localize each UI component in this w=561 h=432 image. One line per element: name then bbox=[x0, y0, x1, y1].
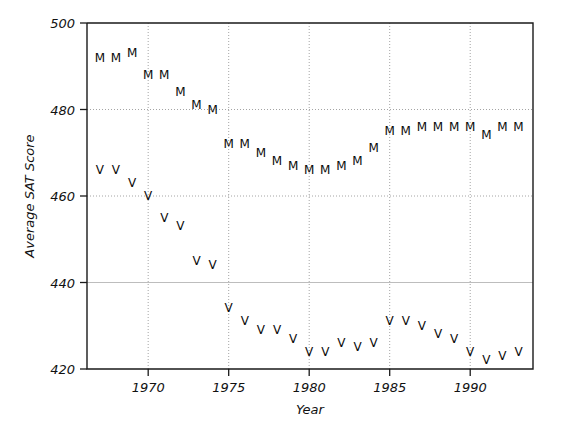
data-marker: M bbox=[433, 120, 443, 134]
data-marker: M bbox=[240, 137, 250, 151]
data-marker: V bbox=[418, 319, 427, 333]
x-tick-label: 1990 bbox=[454, 380, 487, 395]
y-axis-ticks: 420440460480500 bbox=[50, 16, 87, 377]
data-marker: M bbox=[127, 46, 137, 60]
data-marker: V bbox=[289, 332, 298, 346]
data-marker: V bbox=[160, 211, 169, 225]
data-marker: M bbox=[95, 51, 105, 65]
x-tick-label: 1985 bbox=[373, 380, 406, 395]
data-marker: M bbox=[368, 141, 378, 155]
data-marker: M bbox=[256, 146, 266, 160]
data-marker: V bbox=[257, 323, 266, 337]
y-tick-label: 500 bbox=[50, 16, 75, 31]
data-marker: M bbox=[513, 120, 523, 134]
series-V: VVVVVVVVVVVVVVVVVVVVVVVVVVV bbox=[96, 163, 524, 367]
data-marker: M bbox=[352, 154, 362, 168]
data-marker: M bbox=[191, 98, 201, 112]
data-marker: M bbox=[465, 120, 475, 134]
data-marker: V bbox=[208, 258, 217, 272]
data-marker: V bbox=[353, 340, 362, 354]
data-marker: M bbox=[497, 120, 507, 134]
data-marker: V bbox=[386, 314, 395, 328]
data-marker: M bbox=[417, 120, 427, 134]
data-marker: V bbox=[192, 254, 201, 268]
data-marker: M bbox=[111, 51, 121, 65]
data-marker: V bbox=[498, 349, 507, 363]
sat-score-chart: 420440460480500 19701975198019851990 MMM… bbox=[0, 0, 561, 432]
x-tick-label: 1970 bbox=[132, 380, 165, 395]
data-marker: M bbox=[224, 137, 234, 151]
data-marker: V bbox=[112, 163, 121, 177]
data-marker: V bbox=[176, 219, 185, 233]
data-marker: M bbox=[304, 163, 314, 177]
data-marker: V bbox=[273, 323, 282, 337]
y-tick-label: 420 bbox=[50, 362, 75, 377]
data-marker: V bbox=[144, 189, 153, 203]
data-marker: M bbox=[449, 120, 459, 134]
data-marker: V bbox=[96, 163, 105, 177]
y-tick-label: 440 bbox=[50, 276, 75, 291]
chart-canvas: 420440460480500 19701975198019851990 MMM… bbox=[0, 0, 561, 432]
data-marker: M bbox=[385, 124, 395, 138]
data-marker: M bbox=[159, 68, 169, 82]
data-marker: M bbox=[272, 154, 282, 168]
data-marker: V bbox=[321, 345, 330, 359]
data-marker: V bbox=[482, 353, 491, 367]
data-marker: M bbox=[336, 159, 346, 173]
gridlines-group bbox=[87, 23, 533, 369]
y-tick-label: 460 bbox=[50, 189, 75, 204]
data-marker: V bbox=[450, 332, 459, 346]
x-axis-label: Year bbox=[296, 402, 325, 417]
data-marker: V bbox=[225, 301, 234, 315]
data-marker: V bbox=[402, 314, 411, 328]
data-marker: M bbox=[401, 124, 411, 138]
y-axis-label: Average SAT Score bbox=[22, 134, 37, 258]
data-marker: V bbox=[369, 336, 378, 350]
data-marker: M bbox=[320, 163, 330, 177]
data-marker: V bbox=[434, 327, 443, 341]
x-axis-ticks: 19701975198019851990 bbox=[132, 369, 487, 395]
x-tick-label: 1980 bbox=[293, 380, 326, 395]
data-marker: M bbox=[175, 85, 185, 99]
y-tick-label: 480 bbox=[50, 103, 75, 118]
data-marker: V bbox=[466, 345, 475, 359]
data-marker: V bbox=[305, 345, 314, 359]
data-marker: M bbox=[143, 68, 153, 82]
data-marker: M bbox=[207, 103, 217, 117]
data-marker: V bbox=[241, 314, 250, 328]
data-marker: M bbox=[288, 159, 298, 173]
data-marker: V bbox=[128, 176, 137, 190]
data-marker: V bbox=[514, 345, 523, 359]
data-marker: V bbox=[337, 336, 346, 350]
x-tick-label: 1975 bbox=[212, 380, 245, 395]
data-marker: M bbox=[481, 128, 491, 142]
